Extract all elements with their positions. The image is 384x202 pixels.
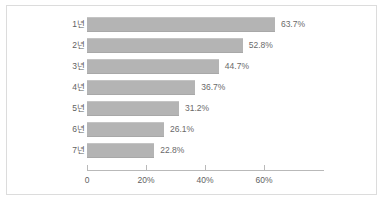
bar-value-label: 44.7% xyxy=(225,59,249,74)
bar-value-label: 22.8% xyxy=(160,143,184,158)
bar-value-label: 31.2% xyxy=(185,101,209,116)
chart-frame: 1년63.7%2년52.8%3년44.7%4년36.7%5년31.2%6년26.… xyxy=(6,5,377,195)
bar-value-label: 26.1% xyxy=(170,122,194,137)
bar-row: 7년22.8% xyxy=(7,143,376,158)
x-axis-tick-label: 60% xyxy=(244,174,284,186)
category-label: 7년 xyxy=(45,143,85,158)
bar-row: 6년26.1% xyxy=(7,122,376,137)
x-axis-line xyxy=(87,170,324,171)
x-axis-tick-label: 40% xyxy=(185,174,225,186)
category-label: 4년 xyxy=(45,80,85,95)
x-axis-tick-label: 0 xyxy=(67,174,107,186)
category-label: 5년 xyxy=(45,101,85,116)
category-label: 2년 xyxy=(45,38,85,53)
x-axis-tick xyxy=(205,165,206,170)
bar xyxy=(87,59,219,74)
x-axis-tick xyxy=(87,165,88,170)
bar xyxy=(87,80,195,95)
x-axis-tick xyxy=(146,165,147,170)
category-label: 3년 xyxy=(45,59,85,74)
bar xyxy=(87,38,243,53)
plot-area: 1년63.7%2년52.8%3년44.7%4년36.7%5년31.2%6년26.… xyxy=(7,6,376,194)
bar-value-label: 63.7% xyxy=(281,17,305,32)
bar xyxy=(87,143,154,158)
bar-row: 4년36.7% xyxy=(7,80,376,95)
x-axis-tick-label: 20% xyxy=(126,174,166,186)
bar-value-label: 36.7% xyxy=(201,80,225,95)
bar-row: 1년63.7% xyxy=(7,17,376,32)
bar-row: 2년52.8% xyxy=(7,38,376,53)
category-label: 1년 xyxy=(45,17,85,32)
category-label: 6년 xyxy=(45,122,85,137)
bar xyxy=(87,17,275,32)
bar-value-label: 52.8% xyxy=(249,38,273,53)
bar xyxy=(87,122,164,137)
bar-row: 3년44.7% xyxy=(7,59,376,74)
x-axis-tick xyxy=(264,165,265,170)
bar-row: 5년31.2% xyxy=(7,101,376,116)
bar xyxy=(87,101,179,116)
